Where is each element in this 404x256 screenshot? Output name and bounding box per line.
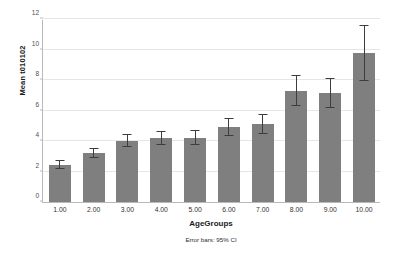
- error-bar-cap-bottom: [292, 105, 301, 106]
- bar-group[interactable]: 2.00: [77, 20, 111, 202]
- bar[interactable]: [252, 124, 274, 202]
- error-bar-cap-top: [55, 160, 64, 161]
- error-bar-cap-bottom: [326, 107, 335, 108]
- y-tick-label: 4: [35, 131, 39, 138]
- bar[interactable]: [150, 138, 172, 202]
- plot-area: 024681012 1.002.003.004.005.006.007.008.…: [42, 20, 380, 203]
- error-bar-line: [127, 134, 128, 147]
- bar-group[interactable]: 3.00: [111, 20, 145, 202]
- bar-group[interactable]: 10.00: [347, 20, 381, 202]
- error-bar-cap-top: [123, 134, 132, 135]
- x-axis-title: AgeGroups: [42, 219, 380, 228]
- bar-group[interactable]: 6.00: [212, 20, 246, 202]
- error-bar: [258, 114, 267, 135]
- error-bar-cap-bottom: [123, 146, 132, 147]
- bar-group[interactable]: 7.00: [246, 20, 280, 202]
- bar-group[interactable]: 8.00: [280, 20, 314, 202]
- error-bar-cap-top: [89, 148, 98, 149]
- y-axis-title: Mean t010102: [18, 11, 27, 131]
- y-tick-label: 6: [35, 100, 39, 107]
- bar-group[interactable]: 9.00: [313, 20, 347, 202]
- x-tick-label: 7.00: [256, 206, 269, 213]
- bar[interactable]: [83, 153, 105, 202]
- error-bar-cap-bottom: [224, 135, 233, 136]
- error-bar-line: [228, 118, 229, 136]
- bar-chart: Mean t010102 024681012 1.002.003.004.005…: [0, 0, 404, 256]
- error-bar: [89, 148, 98, 158]
- x-tick-label: 1.00: [53, 206, 66, 213]
- error-bar-line: [330, 78, 331, 108]
- error-bar: [292, 75, 301, 106]
- error-bar: [55, 160, 64, 169]
- error-bar-footnote: Error bars: 95% CI: [42, 236, 380, 243]
- error-bar-cap-top: [191, 130, 200, 131]
- error-bar-cap-bottom: [191, 144, 200, 145]
- error-bar-line: [296, 75, 297, 106]
- error-bar-line: [161, 131, 162, 145]
- bar-group[interactable]: 5.00: [178, 20, 212, 202]
- error-bar-cap-top: [224, 118, 233, 119]
- y-tick-label: 8: [35, 70, 39, 77]
- error-bar: [157, 131, 166, 145]
- error-bar-cap-top: [157, 131, 166, 132]
- error-bar-line: [364, 25, 365, 81]
- bar[interactable]: [116, 141, 138, 202]
- error-bar: [123, 134, 132, 147]
- error-bar: [326, 78, 335, 108]
- bar-group[interactable]: 1.00: [43, 20, 77, 202]
- error-bar-cap-bottom: [360, 80, 369, 81]
- error-bar-cap-bottom: [258, 133, 267, 134]
- error-bar-line: [262, 114, 263, 135]
- x-tick-label: 2.00: [87, 206, 100, 213]
- bar-group[interactable]: 4.00: [144, 20, 178, 202]
- y-tick-label: 10: [32, 39, 39, 46]
- bar[interactable]: [49, 165, 71, 202]
- y-tick-label: 0: [35, 192, 39, 199]
- gridline: [43, 18, 380, 19]
- x-tick-label: 5.00: [188, 206, 201, 213]
- error-bar-cap-top: [258, 114, 267, 115]
- y-tick-label: 12: [32, 9, 39, 16]
- bar[interactable]: [319, 93, 341, 202]
- error-bar: [191, 130, 200, 145]
- error-bar-cap-top: [360, 25, 369, 26]
- bar[interactable]: [218, 127, 240, 202]
- error-bar-cap-bottom: [89, 157, 98, 158]
- error-bar: [360, 25, 369, 81]
- x-tick-label: 10.00: [356, 206, 373, 213]
- x-tick-label: 8.00: [290, 206, 303, 213]
- bar[interactable]: [285, 91, 307, 202]
- x-tick-label: 6.00: [222, 206, 235, 213]
- error-bar: [224, 118, 233, 136]
- y-tick-label: 2: [35, 161, 39, 168]
- bars-layer: 1.002.003.004.005.006.007.008.009.0010.0…: [43, 20, 380, 202]
- x-tick-label: 9.00: [324, 206, 337, 213]
- error-bar-cap-bottom: [157, 144, 166, 145]
- bar[interactable]: [184, 138, 206, 202]
- error-bar-cap-top: [326, 78, 335, 79]
- error-bar-line: [195, 130, 196, 145]
- x-tick-label: 3.00: [121, 206, 134, 213]
- y-tick-mark: [40, 18, 43, 19]
- error-bar-cap-bottom: [55, 168, 64, 169]
- x-tick-label: 4.00: [155, 206, 168, 213]
- error-bar-cap-top: [292, 75, 301, 76]
